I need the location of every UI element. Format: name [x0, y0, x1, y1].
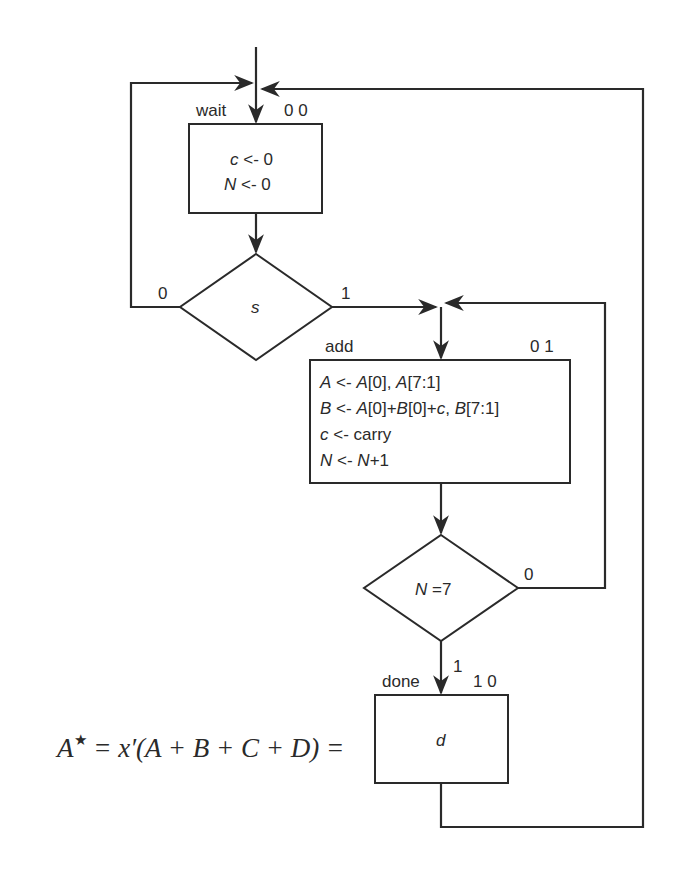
action-line: N <- 0 [224, 175, 271, 194]
branch-label-true: 1 [453, 657, 462, 676]
overlay-formula: A★ = x′(A + B + C + D) = [55, 732, 344, 763]
decision-condition: s [251, 298, 260, 317]
state-add: add 0 1 A <- A[0], A[7:1] B <- A[0]+B[0]… [310, 337, 570, 483]
action-line: B <- A[0]+B[0]+c, B[7:1] [320, 399, 499, 418]
action-line: N <- N+1 [320, 451, 389, 470]
state-code-add: 0 1 [530, 337, 554, 356]
asm-chart: wait 0 0 c <- 0 N <- 0 s 0 1 add 0 1 A <… [0, 0, 680, 872]
state-name-add: add [325, 337, 353, 356]
branch-label-true: 1 [341, 284, 350, 303]
action-line: A <- A[0], A[7:1] [319, 373, 441, 392]
action-output-d: d [436, 731, 446, 750]
action-line: c <- carry [320, 425, 392, 444]
branch-label-false: 0 [158, 284, 167, 303]
decision-n-equals-7: N =7 0 1 [364, 535, 533, 676]
decision-condition: N =7 [415, 580, 451, 599]
state-code-done: 1 0 [473, 672, 497, 691]
state-code-wait: 0 0 [284, 101, 308, 120]
branch-label-false: 0 [524, 565, 533, 584]
decision-s: s 0 1 [158, 254, 350, 360]
action-line: c <- 0 [230, 150, 273, 169]
state-name-wait: wait [195, 101, 227, 120]
state-name-done: done [382, 672, 420, 691]
